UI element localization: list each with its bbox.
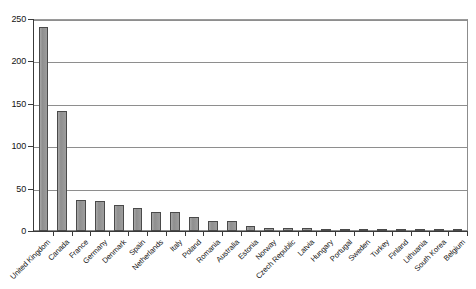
bar-fill — [77, 201, 85, 230]
bar[interactable] — [415, 229, 425, 231]
y-axis-tick-label: 50 — [0, 185, 26, 194]
y-axis-tick-label: 0 — [0, 227, 26, 236]
bar-fill — [171, 213, 179, 230]
x-axis-tick — [298, 232, 299, 236]
x-axis-tick — [260, 232, 261, 236]
x-axis-tick — [335, 232, 336, 236]
bars-container — [34, 20, 468, 231]
bar[interactable] — [283, 228, 293, 231]
x-axis-tick — [53, 232, 54, 236]
bar-fill — [303, 229, 311, 230]
x-axis-tick — [411, 232, 412, 236]
bar[interactable] — [57, 111, 67, 231]
bar[interactable] — [133, 208, 143, 231]
bar[interactable] — [302, 228, 312, 231]
x-axis-tick — [373, 232, 374, 236]
bar[interactable] — [95, 201, 105, 231]
x-axis-tick — [279, 232, 280, 236]
x-axis-tick — [90, 232, 91, 236]
bar-fill — [209, 222, 217, 230]
bar[interactable] — [434, 229, 444, 231]
x-axis-tick — [448, 232, 449, 236]
bar[interactable] — [321, 229, 331, 231]
bar-fill — [115, 206, 123, 230]
bar[interactable] — [396, 229, 406, 231]
bar[interactable] — [39, 27, 49, 231]
x-axis-tick — [429, 232, 430, 236]
bar[interactable] — [453, 229, 463, 231]
bar-fill — [228, 222, 236, 230]
bar[interactable] — [76, 200, 86, 231]
x-axis-tick — [316, 232, 317, 236]
x-axis-tick — [147, 232, 148, 236]
bar-fill — [247, 227, 255, 230]
y-axis-tick-label: 100 — [0, 142, 26, 151]
bar[interactable] — [208, 221, 218, 231]
bar-fill — [40, 28, 48, 230]
x-axis-tick — [467, 232, 468, 236]
bar[interactable] — [359, 229, 369, 231]
bar-fill — [284, 229, 292, 230]
x-axis-tick — [241, 232, 242, 236]
bar-fill — [190, 218, 198, 230]
bar-fill — [152, 213, 160, 231]
x-axis-tick — [203, 232, 204, 236]
x-axis-tick — [392, 232, 393, 236]
bar-fill — [96, 202, 104, 230]
x-axis-tick — [354, 232, 355, 236]
bar[interactable] — [377, 229, 387, 231]
x-axis-tick — [222, 232, 223, 236]
bar[interactable] — [170, 212, 180, 231]
bar[interactable] — [227, 221, 237, 231]
bar-fill — [134, 209, 142, 230]
bar[interactable] — [264, 228, 274, 231]
x-axis-tick — [166, 232, 167, 236]
bar[interactable] — [189, 217, 199, 231]
bar[interactable] — [114, 205, 124, 231]
x-axis-tick — [185, 232, 186, 236]
y-axis-tick-label: 200 — [0, 57, 26, 66]
y-axis-tick-label: 150 — [0, 100, 26, 109]
x-axis-tick — [72, 232, 73, 236]
bar[interactable] — [151, 212, 161, 232]
x-axis-tick — [109, 232, 110, 236]
bar-chart: 050100150200250 United KingdomCanadaFran… — [0, 0, 476, 289]
bar-fill — [58, 112, 66, 230]
x-axis-tick — [128, 232, 129, 236]
y-axis-tick-label: 250 — [0, 15, 26, 24]
bar[interactable] — [246, 226, 256, 231]
bar[interactable] — [340, 229, 350, 231]
bar-fill — [265, 229, 273, 230]
